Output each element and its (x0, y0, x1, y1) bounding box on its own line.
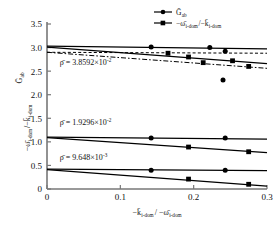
trend-line (47, 137, 267, 139)
x-tick-label: 0.3 (261, 192, 273, 202)
chart-figure: 00.51.01.52.02.53.03.500.10.20.3ρ̄ = 3.8… (0, 0, 274, 230)
trend-line (47, 138, 267, 153)
x-axis-label: −k̄i-dom/ −ω̄i-dom (132, 208, 181, 218)
trend-line (47, 169, 267, 170)
legend-marker-square (161, 21, 166, 26)
data-point-square (246, 149, 251, 154)
data-point-circle (149, 168, 154, 173)
data-point-circle (149, 45, 154, 50)
scatter-plot-canvas: 00.51.01.52.02.53.03.500.10.20.3ρ̄ = 3.8… (0, 0, 274, 230)
legend-label: −ω̄i-dom/−k̄i-dom (176, 19, 221, 29)
data-point-square (186, 145, 191, 150)
data-point-circle (149, 136, 154, 141)
x-tick-label: 0.2 (188, 192, 199, 202)
data-point-circle (223, 168, 228, 173)
trend-line (47, 46, 267, 49)
y-axis-label-line2: −ω̄i-dom/−k̄i-dom (23, 105, 33, 152)
y-tick-label: 3.0 (31, 43, 43, 53)
data-point-square (186, 55, 191, 60)
data-point-square (186, 177, 191, 182)
y-tick-label: 2.0 (31, 90, 43, 100)
data-point-square (230, 58, 235, 63)
trend-line (47, 52, 267, 53)
data-point-square (166, 51, 171, 56)
legend-label: Ḡab (176, 8, 187, 18)
data-point-square (246, 64, 251, 69)
data-point-square (246, 182, 251, 187)
y-axis-label-line1: Ḡab (15, 72, 25, 83)
data-point-circle (223, 49, 228, 54)
y-tick-label: 0.5 (31, 161, 43, 171)
x-tick-label: 0 (45, 192, 50, 202)
annotation-rho-top: ρ̄ = 3.8592×10-2 (60, 57, 112, 67)
data-point-circle (207, 45, 212, 50)
y-tick-label: 3.5 (31, 19, 43, 29)
data-point-circle (221, 78, 226, 83)
x-tick-label: 0.1 (115, 192, 126, 202)
y-tick-label: 2.5 (31, 67, 43, 77)
annotation-rho-bottom: ρ̄ = 9.648×10-3 (60, 152, 108, 162)
legend-marker-circle (161, 10, 166, 15)
annotation-rho-mid: ρ̄ = 1.9296×10-2 (60, 117, 112, 127)
trend-line (47, 170, 267, 187)
data-point-square (201, 60, 206, 65)
data-point-circle (223, 136, 228, 141)
y-tick-label: 0 (38, 184, 43, 194)
